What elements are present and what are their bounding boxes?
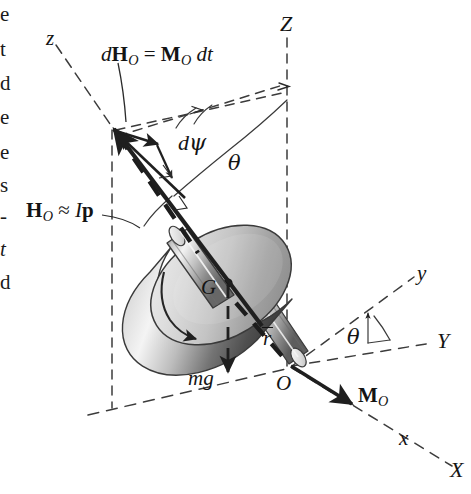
y-axis-label: y <box>417 263 426 284</box>
dH-equation-M-subscript: O <box>181 52 192 68</box>
theta-bottom-base-tick <box>368 340 390 343</box>
dpsi-d: d <box>178 130 189 155</box>
moment-vector-MO <box>291 366 352 404</box>
y-axis-small-line <box>292 277 414 366</box>
margin-text-fragment: d <box>0 270 11 295</box>
margin-text-fragment: t <box>0 37 6 62</box>
Z-axis-label: Z <box>280 13 292 35</box>
H-momentum-H-subscript: O <box>42 208 53 224</box>
dpsi-angle-arc <box>176 108 196 128</box>
angular-momentum-label: HO ≈ Ip <box>26 200 94 223</box>
dH-equation-label: dHO = MO dt <box>101 44 213 67</box>
gyroscope-precession-figure: e t d e e s - t d dHO = MO dt HO ≈ Ip dψ… <box>0 0 471 494</box>
dpsi-psi: ψ <box>189 130 206 155</box>
moment-M: M <box>358 383 378 407</box>
dH-equation-equals: = <box>144 42 156 66</box>
x-axis-label: x <box>399 428 408 449</box>
margin-text-fragment: t <box>0 237 6 262</box>
H-momentum-p: p <box>82 198 94 222</box>
vertical-plane-top-edge <box>116 92 287 130</box>
dH-equation-H: H <box>112 42 128 66</box>
theta-label-top: θ <box>228 153 241 174</box>
dH-label-leader <box>118 63 126 122</box>
margin-text-fragment: e <box>0 2 9 27</box>
new-H-vector <box>118 134 185 198</box>
H-momentum-I: I <box>75 198 82 222</box>
dH-equation-M: M <box>161 42 181 66</box>
diagram-artwork <box>0 0 471 494</box>
position-vector-label: r <box>263 328 271 349</box>
dH-equation-H-subscript: O <box>128 52 139 68</box>
origin-label: O <box>276 373 291 394</box>
position-vector-r-glyph: r <box>263 328 271 349</box>
dpsi-label: dψ <box>178 132 206 154</box>
y-axis-capital-line <box>292 343 432 366</box>
dH-equation-d: d <box>101 42 112 66</box>
H-momentum-H: H <box>26 198 42 222</box>
dH-equation-dt: dt <box>196 42 212 66</box>
theta-label-bottom: θ <box>347 327 360 348</box>
spin-axis-tick-lower <box>175 196 187 210</box>
center-of-mass-label: G <box>201 277 216 298</box>
X-axis-label: X <box>450 459 463 481</box>
H-momentum-approx: ≈ <box>58 198 70 222</box>
margin-text-fragment: - <box>0 204 7 229</box>
margin-text-fragment: d <box>0 71 11 96</box>
margin-text-fragment: e <box>0 105 9 130</box>
Y-axis-label: Y <box>437 330 449 352</box>
weight-label: mg <box>188 368 214 389</box>
moment-M-subscript: O <box>378 393 389 409</box>
z-axis-label: z <box>46 28 54 49</box>
H-momentum-label-leader <box>102 215 140 228</box>
theta-angle-arc-bottom <box>374 316 390 340</box>
margin-text-fragment: s <box>0 173 8 198</box>
margin-text-fragment: e <box>0 140 9 165</box>
moment-label: MO <box>358 385 388 408</box>
